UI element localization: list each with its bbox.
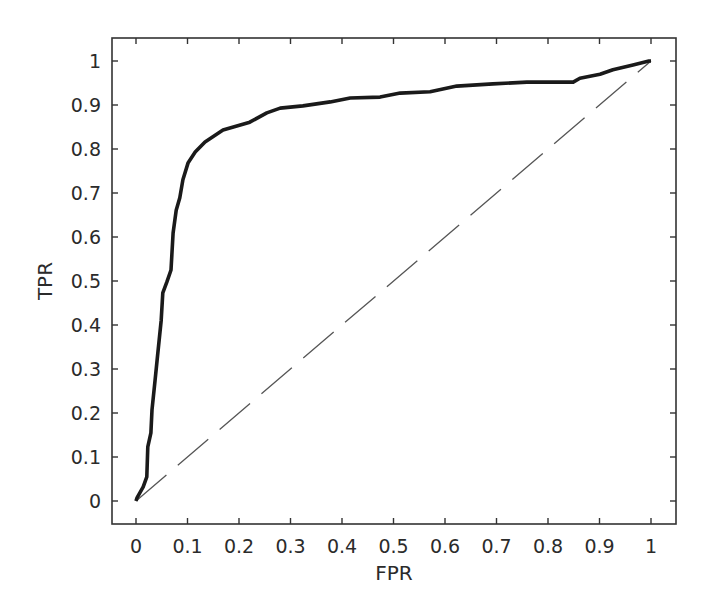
y-tick-label: 0.4 [71, 314, 101, 336]
x-tick-label: 0.5 [378, 535, 408, 557]
y-tick-label: 0 [89, 490, 101, 512]
x-tick-label: 0.1 [172, 535, 202, 557]
x-tick-label: 0.6 [430, 535, 460, 557]
y-tick-label: 0.1 [71, 446, 101, 468]
y-tick-label: 0.6 [71, 226, 101, 248]
y-tick-label: 0.3 [71, 358, 101, 380]
x-tick-label: 0 [130, 535, 142, 557]
y-tick-label: 0.5 [71, 270, 101, 292]
x-tick-label: 1 [645, 535, 657, 557]
y-tick-label: 0.8 [71, 138, 101, 160]
x-tick-label: 0.3 [275, 535, 305, 557]
y-tick-label: 0.7 [71, 182, 101, 204]
x-tick-label: 0.2 [224, 535, 254, 557]
x-tick-label: 0.4 [327, 535, 357, 557]
y-tick-label: 1 [89, 50, 101, 72]
x-axis-label: FPR [375, 561, 413, 585]
roc-chart: 00.10.20.30.40.50.60.70.80.91 00.10.20.3… [0, 0, 708, 615]
x-tick-label: 0.8 [533, 535, 563, 557]
x-tick-label: 0.7 [481, 535, 511, 557]
y-axis-label: TPR [33, 262, 57, 301]
y-tick-label: 0.9 [71, 94, 101, 116]
x-tick-label: 0.9 [584, 535, 614, 557]
y-tick-label: 0.2 [71, 402, 101, 424]
